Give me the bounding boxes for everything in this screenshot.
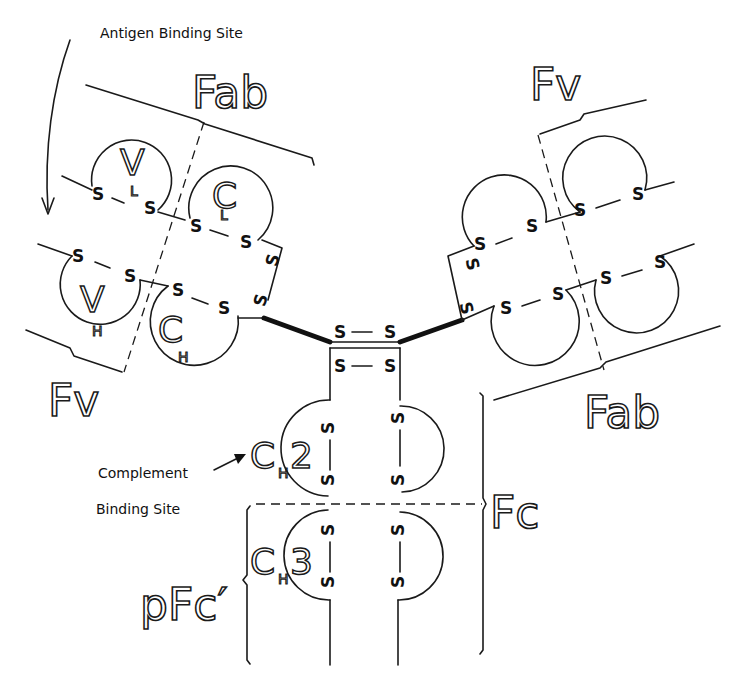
svg-text:S: S — [249, 291, 271, 308]
svg-text:S: S — [72, 246, 84, 266]
svg-text:S: S — [190, 216, 202, 236]
svg-text:S: S — [318, 474, 338, 486]
fv-boundary-right — [538, 135, 604, 370]
svg-text:S: S — [388, 576, 408, 588]
svg-text:S: S — [124, 266, 136, 286]
svg-text:S: S — [600, 268, 612, 288]
svg-text:H: H — [178, 349, 189, 365]
svg-text:H: H — [278, 465, 289, 481]
svg-text:S: S — [574, 200, 586, 220]
svg-text:S: S — [318, 576, 338, 588]
svg-text:L: L — [220, 207, 228, 223]
fv-right-label: Fv — [530, 59, 581, 110]
pfc-bracket — [243, 506, 250, 664]
fab-right-label: Fab — [584, 387, 660, 438]
svg-text:S: S — [474, 234, 486, 254]
svg-text:S: S — [318, 524, 338, 536]
svg-text:S: S — [318, 422, 338, 434]
svg-text:L: L — [130, 183, 138, 199]
ch2-label: C — [250, 435, 275, 476]
vl-label: V — [120, 142, 145, 183]
svg-text:H: H — [278, 571, 289, 587]
svg-text:S: S — [632, 184, 644, 204]
antibody-diagram: Antigen Binding Site Fab V L C L S S S S… — [0, 0, 743, 694]
svg-text:S: S — [388, 474, 408, 486]
svg-text:S: S — [654, 252, 666, 272]
antigen-binding-site-label: Antigen Binding Site — [100, 25, 243, 41]
svg-text:S: S — [172, 280, 184, 300]
hinge-bonds — [330, 342, 400, 348]
svg-text:S: S — [552, 284, 564, 304]
complement-binding-site-label: Complement — [98, 465, 188, 481]
fc-label: Fc — [490, 487, 540, 538]
fab-left-label: Fab — [192, 67, 268, 118]
svg-text:S: S — [384, 322, 396, 342]
svg-text:2: 2 — [290, 435, 313, 476]
svg-text:S: S — [218, 298, 230, 318]
svg-text:S: S — [240, 232, 252, 252]
svg-text:3: 3 — [290, 541, 313, 582]
vh-label: V — [80, 279, 105, 320]
svg-text:S: S — [461, 256, 483, 273]
svg-text:S: S — [92, 184, 104, 204]
ch1-label: C — [158, 309, 183, 350]
antigen-arrow — [47, 40, 70, 210]
svg-text:S: S — [334, 322, 346, 342]
svg-text:H: H — [92, 323, 103, 339]
complement-binding-site-label-2: Binding Site — [96, 501, 180, 517]
svg-text:S: S — [388, 524, 408, 536]
svg-text:S: S — [144, 198, 156, 218]
fc-bracket — [480, 393, 486, 654]
svg-text:S: S — [500, 298, 512, 318]
svg-text:S: S — [388, 412, 408, 424]
svg-text:S: S — [334, 356, 346, 376]
fv-left-label: Fv — [48, 375, 99, 426]
ch3-label: C — [250, 541, 275, 582]
pfc-label: pFc′ — [140, 579, 227, 630]
hinge-right — [400, 320, 462, 342]
hinge-left — [264, 318, 330, 342]
fv-left-bracket — [26, 330, 122, 372]
svg-text:S: S — [526, 216, 538, 236]
light-chain-link — [262, 240, 282, 300]
svg-text:S: S — [384, 356, 396, 376]
